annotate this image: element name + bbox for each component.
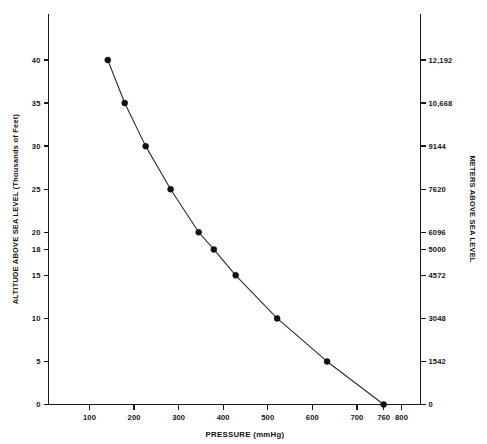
data-point-marker: [196, 229, 202, 235]
y-axis-right-tick-label: 12,192: [429, 56, 453, 65]
y-axis-right-tick-label: 3048: [429, 314, 446, 323]
x-axis-tick-label: 600: [306, 413, 319, 422]
x-axis-tick-label: 700: [350, 413, 363, 422]
y-axis-left-tick-label: 40: [32, 56, 41, 65]
plot-axes: [48, 14, 421, 405]
x-axis-tick-label: 300: [172, 413, 185, 422]
altitude-pressure-chart: 051015182025303540 015423048457250006096…: [0, 0, 487, 444]
y-axis-left-tick-label: 10: [32, 314, 41, 323]
data-point-marker: [233, 272, 239, 278]
data-series-group: [105, 57, 387, 408]
chart-screen: 051015182025303540 015423048457250006096…: [0, 0, 487, 444]
x-axis-tick-label: 400: [217, 413, 230, 422]
y-axis-right-tick-label: 1542: [429, 357, 446, 366]
x-axis-tick-label: 800: [395, 413, 408, 422]
y-axis-left-tick-label: 25: [32, 185, 41, 194]
y-axis-right-tick-label: 7620: [429, 185, 446, 194]
series-line-altitude-vs-pressure: [108, 60, 384, 405]
y-axis-right-tick-label: 4572: [429, 271, 446, 280]
y-axis-left-tick-label: 0: [36, 400, 40, 409]
x-axis-tick-label: 500: [261, 413, 274, 422]
data-point-marker: [274, 315, 280, 321]
x-axis-ticks: 100200300400500600700760800: [83, 405, 408, 422]
series-markers: [105, 57, 387, 408]
y-axis-right-tick-label: 6096: [429, 228, 446, 237]
y-axis-right-tick-label: 0: [429, 400, 433, 409]
x-axis-title: PRESSURE (mmHg): [205, 430, 284, 439]
y-axis-left-tick-label: 20: [32, 228, 41, 237]
x-axis-tick-label: 200: [128, 413, 141, 422]
x-axis-tick-label: 760: [377, 413, 390, 422]
data-point-marker: [122, 100, 128, 106]
data-point-marker: [105, 57, 111, 63]
y-axis-right-title: METERS ABOVE SEA LEVEL: [468, 155, 477, 262]
data-point-marker: [211, 246, 217, 252]
data-point-marker: [381, 402, 387, 408]
y-axis-left-tick-label: 15: [32, 271, 41, 280]
data-point-marker: [324, 358, 330, 364]
y-axis-right-ticks: 0154230484572500060967620914410,66812,19…: [421, 56, 453, 410]
y-axis-left-tick-label: 5: [36, 357, 41, 366]
data-point-marker: [168, 186, 174, 192]
y-axis-left-ticks: 051015182025303540: [32, 56, 49, 410]
y-axis-left-tick-label: 18: [32, 245, 41, 254]
x-axis-tick-label: 100: [83, 413, 96, 422]
y-axis-right-tick-label: 9144: [429, 142, 447, 151]
y-axis-left-tick-label: 30: [32, 142, 41, 151]
y-axis-right-tick-label: 5000: [429, 245, 446, 254]
y-axis-left-title: ALTITUDE ABOVE SEA LEVEL (Thousands of F…: [11, 113, 20, 304]
y-axis-left-tick-label: 35: [32, 99, 41, 108]
data-point-marker: [143, 143, 149, 149]
y-axis-right-tick-label: 10,668: [429, 99, 453, 108]
